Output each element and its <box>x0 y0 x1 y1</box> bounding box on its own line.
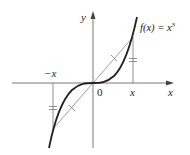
odd-function-diagram: y f(x) = x3 −x 0 x x <box>0 0 190 155</box>
function-label: f(x) = x3 <box>140 21 176 34</box>
pos-x-tick-label: x <box>129 86 135 98</box>
x-axis-label: x <box>167 86 173 98</box>
chord-tick-upper <box>111 55 117 61</box>
y-axis-label: y <box>80 11 86 23</box>
chord-tick-lower <box>69 105 75 111</box>
y-axis-arrow-icon <box>91 11 96 19</box>
origin-label: 0 <box>97 86 103 98</box>
neg-x-label: −x <box>44 67 56 79</box>
x-axis-arrow-icon <box>166 81 174 86</box>
